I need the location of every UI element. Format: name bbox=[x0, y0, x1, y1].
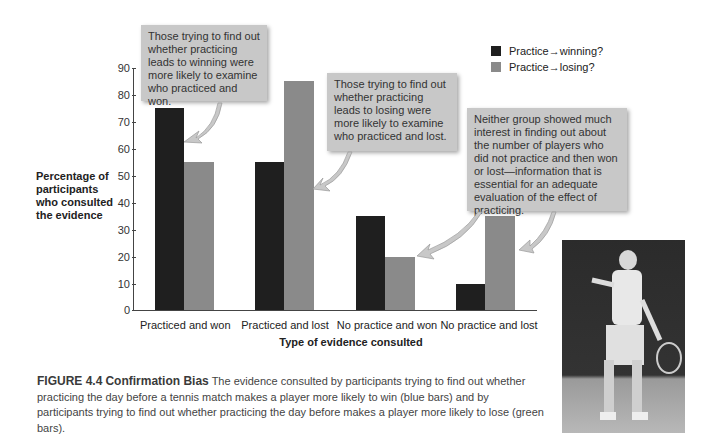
caption-title: Confirmation Bias bbox=[105, 374, 208, 388]
tennis-player-photo bbox=[562, 240, 685, 433]
caption-figure-number: FIGURE 4.4 bbox=[37, 374, 102, 388]
tennis-player-icon bbox=[562, 240, 685, 433]
figure-caption: FIGURE 4.4 Confirmation Bias The evidenc… bbox=[37, 374, 547, 436]
arrow-icon bbox=[519, 212, 556, 253]
arrow-icon bbox=[417, 212, 482, 259]
arrow-icon bbox=[313, 152, 352, 191]
arrow-icon bbox=[184, 103, 222, 143]
